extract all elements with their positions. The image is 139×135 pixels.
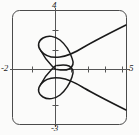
plot-frame <box>13 11 127 125</box>
plot-canvas <box>0 0 139 135</box>
graphing-window: 4 -3 -2 5 <box>0 0 139 135</box>
x-min-label: -2 <box>1 64 8 73</box>
y-min-label: -3 <box>51 124 58 133</box>
y-max-label: 4 <box>52 1 56 10</box>
x-max-label: 5 <box>129 64 133 73</box>
